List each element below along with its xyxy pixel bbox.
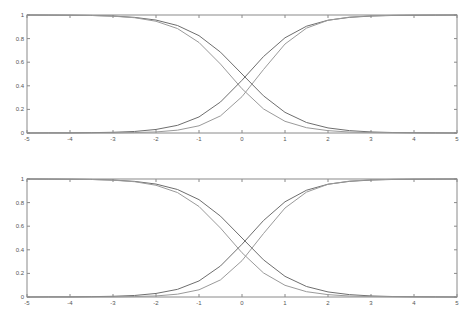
bottom-subplot: -5-4-3-2-101234500.20.40.60.81 [16, 176, 460, 306]
x-tick-label: 2 [326, 300, 330, 306]
y-tick-label: 0.8 [16, 36, 25, 42]
y-tick-label: 0.6 [16, 59, 25, 65]
x-tick-label: -1 [196, 136, 202, 142]
x-tick-label: 4 [412, 136, 416, 142]
x-tick-label: 1 [283, 136, 287, 142]
x-tick-label: -1 [196, 300, 202, 306]
y-tick-label: 0.8 [16, 200, 25, 206]
x-tick-label: -2 [153, 136, 159, 142]
top-subplot: -5-4-3-2-101234500.20.40.60.81 [16, 12, 460, 142]
x-tick-label: -5 [24, 136, 30, 142]
y-tick-label: 1 [21, 176, 25, 182]
y-tick-label: 0.4 [16, 83, 25, 89]
figure: -5-4-3-2-101234500.20.40.60.81 -5-4-3-2-… [0, 0, 472, 327]
x-tick-label: -5 [24, 300, 30, 306]
x-tick-label: -4 [67, 300, 73, 306]
x-tick-label: 4 [412, 300, 416, 306]
x-tick-label: 1 [283, 300, 287, 306]
x-tick-label: 0 [240, 136, 244, 142]
y-tick-label: 1 [21, 12, 25, 18]
y-tick-label: 0.6 [16, 223, 25, 229]
y-tick-label: 0.2 [16, 106, 25, 112]
series-line-decreasing-1 [27, 15, 457, 133]
x-tick-label: 3 [369, 300, 373, 306]
x-tick-label: 2 [326, 136, 330, 142]
y-tick-label: 0.2 [16, 270, 25, 276]
x-tick-label: -4 [67, 136, 73, 142]
x-tick-label: -3 [110, 300, 116, 306]
y-tick-label: 0.4 [16, 247, 25, 253]
x-tick-label: 5 [455, 300, 459, 306]
x-tick-label: -2 [153, 300, 159, 306]
x-tick-label: 5 [455, 136, 459, 142]
x-tick-label: 0 [240, 300, 244, 306]
series-line-decreasing-1 [27, 179, 457, 297]
x-tick-label: 3 [369, 136, 373, 142]
x-tick-label: -3 [110, 136, 116, 142]
